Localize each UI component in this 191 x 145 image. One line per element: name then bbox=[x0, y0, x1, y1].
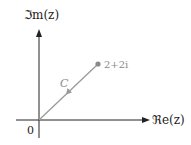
complex-plane-diagram: ℑm(z) ℜe(z) 0 C 2+2i bbox=[0, 0, 191, 145]
real-axis-label: ℜe(z) bbox=[152, 114, 185, 126]
imaginary-axis-arrow-icon bbox=[36, 29, 42, 37]
point-2-plus-2i bbox=[95, 61, 100, 66]
real-axis-arrow-icon bbox=[142, 117, 150, 123]
point-label: 2+2i bbox=[104, 60, 128, 70]
origin-label: 0 bbox=[27, 125, 34, 136]
curve-label: C bbox=[60, 78, 68, 89]
imaginary-axis-label: ℑm(z) bbox=[24, 9, 59, 21]
